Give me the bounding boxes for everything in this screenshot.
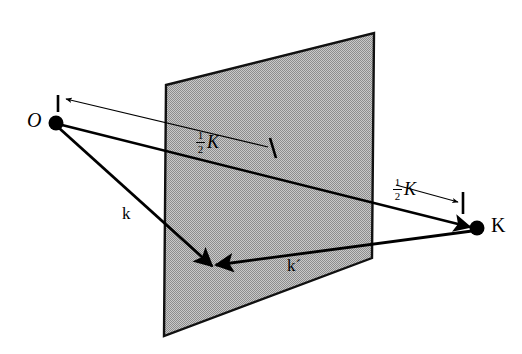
bragg-plane — [164, 33, 374, 336]
half-K-right-symbol: K — [404, 179, 416, 200]
bragg-scattering-diagram: O k k´ K 1 2 K 1 2 K — [0, 0, 522, 354]
label-origin-O: O — [27, 110, 41, 130]
scattering-point-K — [470, 221, 485, 236]
bragg-plane-group — [164, 33, 374, 336]
label-k-prime-vector: k´ — [287, 257, 301, 274]
label-k-vector: k — [122, 205, 131, 222]
half-K-left-fraction: 1 2 — [196, 130, 205, 155]
label-half-K-left: 1 2 K — [196, 130, 219, 155]
half-K-left-numerator: 1 — [197, 130, 205, 142]
origin-point-O — [49, 116, 64, 131]
half-K-right-numerator: 1 — [394, 177, 402, 189]
half-K-right-fraction: 1 2 — [393, 177, 402, 202]
label-K-point: K — [491, 215, 505, 235]
diagram-canvas — [0, 0, 522, 354]
half-K-right-denominator: 2 — [394, 191, 402, 203]
half-K-left-denominator: 2 — [197, 144, 205, 156]
half-K-left-symbol: K — [207, 132, 219, 153]
label-half-K-right: 1 2 K — [393, 177, 416, 202]
